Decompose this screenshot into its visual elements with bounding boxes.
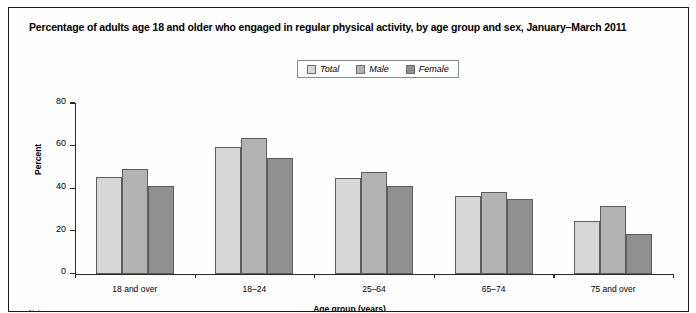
y-axis-tick-label: 80 bbox=[56, 96, 66, 106]
x-axis-category-label: 18–24 bbox=[243, 284, 267, 294]
x-axis-tick bbox=[553, 274, 554, 278]
bar bbox=[455, 196, 481, 274]
bar bbox=[481, 192, 507, 274]
chart-footnote: Note: bbox=[29, 309, 46, 312]
x-axis-category-label: 75 and over bbox=[591, 284, 636, 294]
legend-label-female: Female bbox=[419, 64, 449, 74]
y-axis-tick-label: 0 bbox=[61, 266, 66, 276]
legend-swatch-male bbox=[356, 65, 365, 74]
bar bbox=[387, 186, 413, 274]
legend-label-total: Total bbox=[320, 64, 339, 74]
legend-item-male: Male bbox=[356, 64, 389, 74]
bar bbox=[96, 177, 122, 274]
plot-area: 020406080 18 and over18–2425–6465–7475 a… bbox=[75, 103, 673, 275]
bar bbox=[122, 169, 148, 275]
y-axis-tick-label: 60 bbox=[56, 138, 66, 148]
y-axis-line bbox=[75, 103, 76, 275]
bar bbox=[148, 186, 174, 274]
chart-legend: Total Male Female bbox=[297, 60, 459, 78]
bar bbox=[626, 234, 652, 275]
x-axis-tick bbox=[195, 274, 196, 278]
y-axis-tick: 80 bbox=[70, 102, 75, 103]
x-axis-tick bbox=[314, 274, 315, 278]
bar bbox=[335, 178, 361, 274]
y-axis-tick: 40 bbox=[70, 188, 75, 189]
x-axis-tick bbox=[673, 274, 674, 278]
x-axis-category-label: 18 and over bbox=[112, 284, 157, 294]
bar bbox=[267, 158, 293, 274]
x-axis-label: Age group (years) bbox=[9, 304, 689, 312]
x-axis-category-label: 25–64 bbox=[362, 284, 386, 294]
bar bbox=[241, 138, 267, 274]
bar bbox=[574, 221, 600, 274]
legend-swatch-female bbox=[406, 65, 415, 74]
chart-title: Percentage of adults age 18 and older wh… bbox=[29, 21, 626, 33]
legend-item-female: Female bbox=[406, 64, 449, 74]
bar bbox=[600, 206, 626, 274]
legend-label-male: Male bbox=[369, 64, 389, 74]
bar bbox=[361, 172, 387, 274]
legend-item-total: Total bbox=[307, 64, 339, 74]
y-axis-label: Percent bbox=[33, 144, 43, 175]
x-axis-tick bbox=[75, 274, 76, 278]
y-axis-tick-label: 20 bbox=[56, 224, 66, 234]
x-axis-tick bbox=[434, 274, 435, 278]
y-axis-tick: 60 bbox=[70, 145, 75, 146]
y-axis-tick-label: 40 bbox=[56, 181, 66, 191]
chart-figure: Percentage of adults age 18 and older wh… bbox=[8, 7, 689, 312]
x-axis-category-label: 65–74 bbox=[482, 284, 506, 294]
y-axis-tick: 20 bbox=[70, 230, 75, 231]
bar bbox=[507, 199, 533, 274]
legend-swatch-total bbox=[307, 65, 316, 74]
bar bbox=[215, 147, 241, 274]
